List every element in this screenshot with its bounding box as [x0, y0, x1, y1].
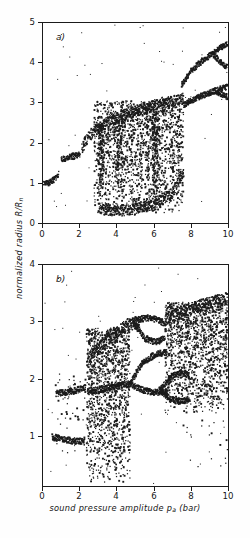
panel-a-xlabel-4: 4 [107, 229, 125, 239]
panel-b-ylabel-2: 2 [17, 374, 35, 384]
panel-b: b) [42, 264, 229, 487]
panel-a-ylabel-3: 3 [17, 97, 35, 107]
panel-a-xtick-10 [228, 224, 229, 228]
panel-a-ytick-4 [38, 62, 42, 63]
panel-a-ytick-5 [38, 22, 42, 23]
panel-a-ylabel-5: 5 [17, 17, 35, 27]
panel-a: a) [42, 22, 229, 224]
x-axis-label: sound pressure amplitude pa (bar) [0, 503, 250, 513]
panel-a-xlabel-2: 2 [70, 229, 88, 239]
panel-a-xlabel-10: 10 [219, 229, 237, 239]
panel-a-tag: a) [56, 32, 65, 42]
panel-a-xlabel-6: 6 [145, 229, 163, 239]
panel-a-xlabel-8: 8 [182, 229, 200, 239]
panel-b-ylabel-3: 3 [17, 316, 35, 326]
panel-b-ylabel-1: 1 [17, 431, 35, 441]
panel-b-tag: b) [56, 274, 65, 284]
panel-b-ylabel-4: 4 [17, 259, 35, 269]
panel-b-xlabel-2: 2 [70, 491, 88, 501]
panel-b-xlabel-8: 8 [182, 491, 200, 501]
x-axis-label-text: sound pressure amplitude [49, 503, 166, 513]
bifurcation-figure: normalized radius R/Rn a) 5 4 3 2 1 0 0 … [0, 0, 250, 538]
panel-a-xlabel-0: 0 [33, 229, 51, 239]
panel-b-xlabel-0: 0 [33, 491, 51, 501]
panel-a-xtick-0 [42, 224, 43, 228]
panel-a-ytick-3 [38, 102, 42, 103]
panel-b-ytick-3 [38, 321, 42, 322]
panel-a-ytick-2 [38, 143, 42, 144]
panel-a-xtick-6 [154, 224, 155, 228]
x-axis-label-unit: (bar) [176, 503, 200, 513]
y-axis-label-subscript: n [17, 197, 24, 201]
panel-b-xlabel-6: 6 [145, 491, 163, 501]
panel-a-ylabel-2: 2 [17, 138, 35, 148]
panel-a-ylabel-4: 4 [17, 57, 35, 67]
panel-a-xtick-8 [191, 224, 192, 228]
panel-a-ytick-1 [38, 183, 42, 184]
panel-b-ytick-4 [38, 264, 42, 265]
panel-b-plot-area [43, 265, 228, 486]
panel-a-xtick-2 [79, 224, 80, 228]
panel-b-xlabel-4: 4 [107, 491, 125, 501]
panel-b-ytick-2 [38, 379, 42, 380]
y-axis-label-text: normalized radius R/R [14, 201, 24, 299]
panel-a-ylabel-0: 0 [17, 218, 35, 228]
panel-b-ytick-1 [38, 436, 42, 437]
panel-b-xlabel-10: 10 [219, 491, 237, 501]
panel-a-plot-area [43, 23, 228, 223]
panel-a-ylabel-1: 1 [17, 178, 35, 188]
panel-a-xtick-4 [116, 224, 117, 228]
